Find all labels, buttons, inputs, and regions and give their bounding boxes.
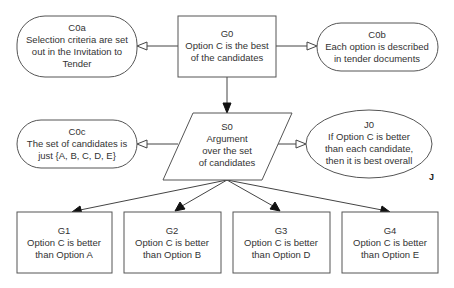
node-s0[interactable]: S0 Argument over the set of candidates <box>163 113 292 180</box>
node-text-line: Tender <box>62 58 91 69</box>
node-text-line: Option C is better <box>244 237 318 248</box>
gsn-diagram: C0a Selection criteria are set out in th… <box>0 0 454 288</box>
node-c0c[interactable]: C0c The set of candidates is just {A, B,… <box>17 120 137 168</box>
edge-s0-c0c <box>137 140 178 148</box>
node-text-line: in tender documents <box>334 53 420 64</box>
node-text-line: Option C is better <box>27 237 101 248</box>
node-id: S0 <box>221 121 233 132</box>
node-text-line: than Option D <box>252 249 311 260</box>
node-id: C0a <box>68 22 86 33</box>
node-g0[interactable]: G0 Option C is the best of the candidate… <box>178 16 276 77</box>
node-c0b[interactable]: C0b Each option is described in tender d… <box>317 23 438 71</box>
node-text-line: Argument <box>206 133 248 144</box>
node-text-line: of candidates <box>199 157 256 168</box>
edge-g0-s0 <box>223 77 231 113</box>
node-text-line: than Option E <box>361 249 419 260</box>
edge-s0-j0 <box>276 140 306 148</box>
node-g3[interactable]: G3 Option C is better than Option D <box>233 212 330 273</box>
edge-s0-g1 <box>72 180 227 214</box>
node-id: G4 <box>384 225 397 236</box>
edge-g0-c0a <box>137 42 178 50</box>
node-text-line: of the candidates <box>191 52 264 63</box>
node-text-line: If Option C is better <box>328 131 410 142</box>
node-text-line: Option C is the best <box>185 40 269 51</box>
node-id: C0c <box>69 126 86 137</box>
node-id: G3 <box>275 225 288 236</box>
node-text-line: Selection criteria are set <box>26 34 128 45</box>
node-text-line: out in the Invitation to <box>32 46 122 57</box>
node-id: C0b <box>368 29 385 40</box>
node-c0a[interactable]: C0a Selection criteria are set out in th… <box>17 16 137 77</box>
node-text-line: than Option A <box>35 249 93 260</box>
node-text-line: Option C is better <box>135 237 209 248</box>
node-text-line: than Option B <box>143 249 201 260</box>
justification-marker: J <box>429 172 434 182</box>
node-id: J0 <box>364 119 374 130</box>
node-text-line: over the set <box>202 145 252 156</box>
node-id: G1 <box>58 225 71 236</box>
edge-g0-c0b <box>276 42 317 50</box>
node-text-line: The set of candidates is <box>27 138 128 149</box>
node-id: G0 <box>221 28 234 39</box>
edge-s0-g2 <box>175 180 227 211</box>
edge-s0-g4 <box>227 180 390 214</box>
node-text-line: Each option is described <box>325 41 429 52</box>
node-g2[interactable]: G2 Option C is better than Option B <box>124 212 221 273</box>
node-text-line: just {A, B, C, D, E} <box>37 150 116 161</box>
node-text-line: than each candidate, <box>325 143 413 154</box>
node-id: G2 <box>166 225 179 236</box>
node-text-line: Option C is better <box>353 237 427 248</box>
node-g1[interactable]: G1 Option C is better than Option A <box>17 212 112 273</box>
node-j0[interactable]: J0 If Option C is better than each candi… <box>306 110 434 182</box>
node-g4[interactable]: G4 Option C is better than Option E <box>342 212 438 273</box>
node-text-line: then it is best overall <box>326 155 413 166</box>
